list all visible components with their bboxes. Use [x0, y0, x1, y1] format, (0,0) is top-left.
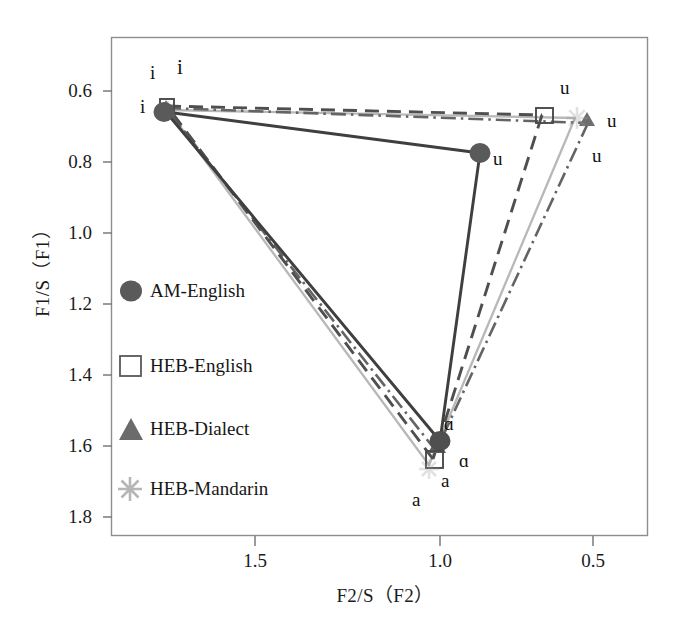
- vowel-label-u-circle: u: [493, 148, 503, 170]
- vowel-label-i-top-mid: i: [177, 55, 183, 80]
- legend-label-heb-dialect[interactable]: HEB-Dialect: [150, 418, 249, 440]
- marker-am-english-u: [470, 143, 491, 163]
- legend-marker-heb-mandarin[interactable]: [118, 477, 142, 501]
- ytick-label-6: 1.8: [38, 506, 92, 528]
- vowel-label-a-lower-mid: a: [441, 470, 449, 492]
- legend-label-heb-mandarin[interactable]: HEB-Mandarin: [150, 478, 268, 500]
- legend-label-heb-english[interactable]: HEB-English: [150, 355, 252, 377]
- vowel-label-u-top: u: [560, 77, 570, 99]
- legend-marker-am-english[interactable]: [120, 281, 142, 302]
- vowel-label-a-open-lower: ɑ: [459, 450, 469, 472]
- marker-am-english-i: [154, 102, 175, 122]
- xtick-label-1: 1.0: [410, 550, 470, 572]
- xtick-label-0: 1.5: [225, 550, 285, 572]
- vowel-label-a-open-upper: ɑ: [444, 413, 454, 435]
- vowel-label-a-bottom: a: [412, 489, 420, 511]
- x-axis-title: F2/S（F2）: [285, 580, 485, 607]
- y-axis-ticks: [103, 91, 112, 517]
- vowel-label-u-right-low: u: [592, 145, 602, 167]
- ytick-label-0: 0.6: [38, 80, 92, 102]
- y-axis-title: F1/S（F1）: [27, 159, 54, 379]
- vowel-label-u-right: u: [607, 110, 617, 132]
- marker-heb-mandarin-a: [419, 459, 439, 479]
- ytick-label-5: 1.6: [38, 435, 92, 457]
- vowel-space-chart: 0.6 0.8 1.0 1.2 1.4 1.6 1.8 1.5 1.0 0.5 …: [0, 0, 685, 638]
- x-axis-ticks: [255, 536, 593, 546]
- vowel-label-i-lower-left: i: [140, 96, 145, 118]
- legend-label-am-english[interactable]: AM-English: [150, 280, 245, 302]
- vowel-label-i-top-left: i: [150, 62, 155, 84]
- marker-heb-mandarin-u: [566, 107, 588, 129]
- xtick-label-2: 0.5: [563, 550, 623, 572]
- plot-canvas: [0, 0, 685, 638]
